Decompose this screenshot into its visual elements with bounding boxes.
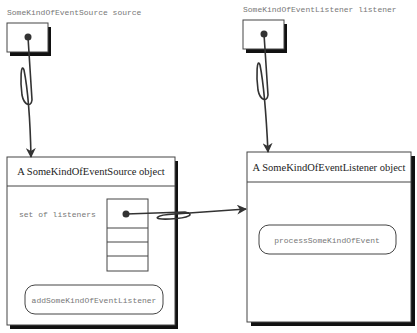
- source-object-title: A SomeKindOfEventSource object: [17, 166, 165, 177]
- process-event-method-label: processSomeKindOfEvent: [274, 236, 380, 245]
- source-variable-label: SomeKindOfEventSource source: [7, 8, 142, 17]
- listeners-list: [107, 199, 148, 271]
- set-of-listeners-label: set of listeners: [19, 210, 96, 219]
- listener-variable-label: SomeKindOfEventListener listener: [243, 5, 397, 14]
- source-object-box: A SomeKindOfEventSource object set of li…: [7, 157, 178, 329]
- listener-object-box: A SomeKindOfEventListener object process…: [247, 152, 415, 326]
- add-listener-method-label: addSomeKindOfEventListener: [32, 296, 157, 305]
- event-listener-diagram: SomeKindOfEventSource source SomeKindOfE…: [0, 0, 417, 333]
- listener-object-title: A SomeKindOfEventListener object: [253, 162, 406, 173]
